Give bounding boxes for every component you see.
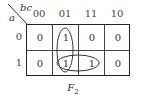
function-subscript: 2	[74, 88, 78, 96]
function-label: F2	[60, 82, 86, 96]
horizontal-group-loop	[57, 55, 99, 71]
vertical-group-loop	[57, 28, 73, 72]
